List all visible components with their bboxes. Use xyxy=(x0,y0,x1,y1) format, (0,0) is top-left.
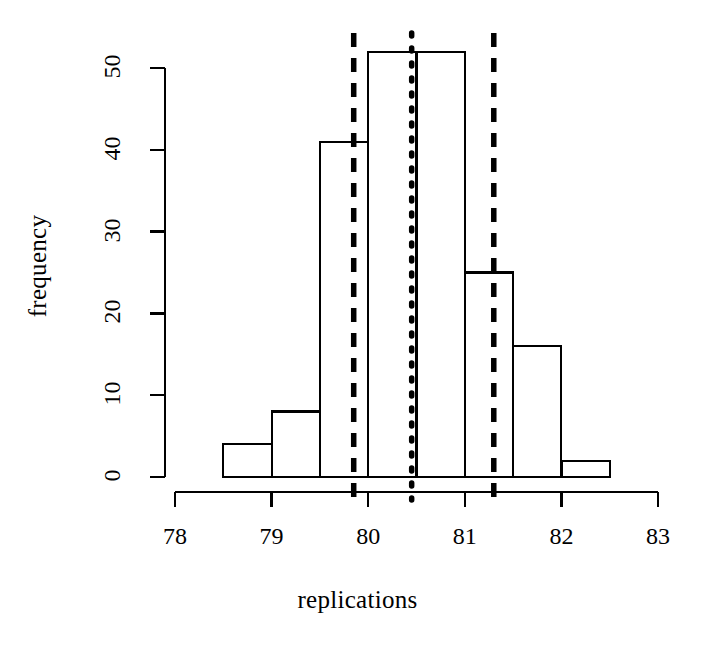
x-tick-label: 81 xyxy=(435,523,495,550)
x-tick-label: 83 xyxy=(628,523,688,550)
histogram-bar xyxy=(320,142,368,477)
x-tick-label: 80 xyxy=(338,523,398,550)
histogram-bar xyxy=(561,461,609,477)
y-tick-label: 50 xyxy=(99,37,126,97)
y-axis xyxy=(150,68,165,477)
histogram-bar xyxy=(368,52,416,477)
histogram-bar xyxy=(272,412,320,477)
x-tick-label: 79 xyxy=(242,523,302,550)
histogram-bars xyxy=(223,52,609,477)
x-axis xyxy=(175,492,658,507)
x-tick-label: 82 xyxy=(531,523,591,550)
x-tick-label: 78 xyxy=(145,523,205,550)
y-axis-title: frequency xyxy=(24,166,52,366)
histogram-bar xyxy=(513,346,561,477)
histogram-bar xyxy=(223,444,271,477)
y-tick-label: 20 xyxy=(99,282,126,342)
y-tick-label: 10 xyxy=(99,364,126,424)
x-axis-title: replications xyxy=(0,586,715,614)
histogram-bar xyxy=(417,52,465,477)
histogram-figure: replications frequency 787980818283 0102… xyxy=(0,0,715,650)
y-tick-label: 0 xyxy=(99,446,126,506)
histogram-bar xyxy=(465,273,513,478)
y-tick-label: 40 xyxy=(99,118,126,178)
y-tick-label: 30 xyxy=(99,200,126,260)
